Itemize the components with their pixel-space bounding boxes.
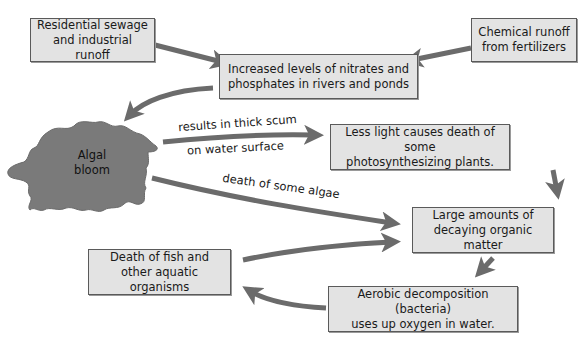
node-nitrates-phosphates: Increased levels of nitrates and phospha… bbox=[219, 54, 418, 99]
node-algal-bloom: Algal bloom bbox=[72, 148, 112, 178]
chemical-label: Chemical runoff from fertilizers bbox=[478, 25, 569, 55]
arrow-nitrates-to-bloom bbox=[130, 88, 213, 115]
node-aerobic-decomposition: Aerobic decomposition (bacteria) uses up… bbox=[328, 286, 518, 332]
arrow-aerobic-to-fish bbox=[250, 291, 326, 308]
aerobic-label: Aerobic decomposition (bacteria) uses up… bbox=[333, 287, 513, 332]
residential-label: Residential sewage and industrial runoff bbox=[35, 18, 150, 63]
less-light-label: Less light causes death of some photosyn… bbox=[335, 125, 505, 170]
node-residential-sewage: Residential sewage and industrial runoff bbox=[30, 18, 155, 62]
node-death-of-fish: Death of fish and other aquatic organism… bbox=[88, 249, 231, 295]
arrow-less-light-to-decaying bbox=[553, 170, 557, 191]
node-less-light: Less light causes death of some photosyn… bbox=[330, 124, 510, 170]
node-chemical-runoff: Chemical runoff from fertilizers bbox=[471, 18, 577, 62]
nitrates-label: Increased levels of nitrates and phospha… bbox=[228, 62, 409, 92]
arrow-fish-to-decaying bbox=[243, 242, 392, 260]
death-fish-label: Death of fish and other aquatic organism… bbox=[93, 250, 226, 295]
arrow-residential-to-nitrates bbox=[155, 45, 222, 62]
algal-bloom-label: Algal bloom bbox=[74, 148, 110, 177]
arrow-chemical-to-nitrates bbox=[412, 48, 471, 60]
node-decaying-matter: Large amounts of decaying organic matter bbox=[412, 207, 554, 253]
arrow-decaying-to-aerobic bbox=[481, 258, 493, 271]
decaying-label: Large amounts of decaying organic matter bbox=[417, 208, 549, 253]
